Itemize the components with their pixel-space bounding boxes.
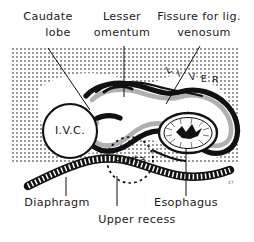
liver-label-group: L I V E R [0, 0, 254, 242]
corner-page-mark: 47 [228, 176, 234, 189]
liver-letter-4: R [211, 73, 219, 87]
anatomical-figure: Caudate lobe Lesser omentum Fissure for … [0, 0, 254, 242]
liver-letter-1: I [175, 67, 182, 80]
liver-letter-2: V [188, 70, 197, 84]
liver-letter-3: E [201, 72, 208, 85]
liver-letter-0: L [164, 62, 174, 76]
